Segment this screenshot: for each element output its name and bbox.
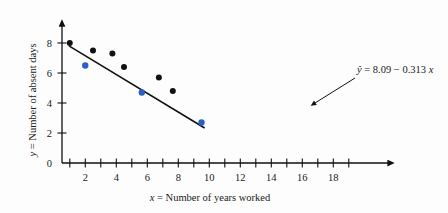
y-tick-label: 6 (47, 68, 52, 79)
y-tick-label: 2 (47, 128, 52, 139)
x-tick-label: 14 (266, 172, 277, 183)
x-tick-label: 6 (145, 172, 150, 183)
x-axis-title-text: = Number of years worked (154, 192, 271, 203)
y-tick-label: 0 (47, 158, 52, 169)
equation-body: = 8.09 − 0.313 (362, 64, 429, 75)
y-axis-title: y = Number of absent days (27, 44, 38, 158)
x-axis-title: x = Number of years worked (149, 192, 271, 203)
regression-line (69, 46, 205, 128)
x-tick-label: 18 (328, 172, 339, 183)
x-tick-label: 8 (176, 172, 181, 183)
x-tick-label: 16 (297, 172, 308, 183)
data-point (139, 89, 145, 95)
data-point (121, 64, 127, 70)
data-point (82, 62, 88, 68)
data-point (198, 119, 204, 125)
x-tick-label: 12 (235, 172, 246, 183)
x-axis-tick-labels: 2 4 6 8 10 12 14 16 18 (83, 172, 339, 183)
data-point (156, 75, 162, 81)
data-point (67, 40, 73, 46)
y-tick-label: 4 (47, 98, 53, 109)
y-axis-title-text: = Number of absent days (27, 44, 38, 152)
equation-x-variable: x (428, 64, 434, 75)
scatterplot-figure: 8 6 4 2 0 (0, 0, 448, 213)
annotation-pointer-line (315, 78, 355, 103)
x-tick-label: 2 (83, 172, 88, 183)
plot-canvas: 8 6 4 2 0 (0, 0, 448, 213)
data-point (109, 51, 115, 57)
x-tick-label: 10 (204, 172, 215, 183)
data-point (170, 88, 176, 94)
y-tick-label: 8 (47, 38, 52, 49)
x-tick-label: 4 (114, 172, 120, 183)
regression-equation-label: ŷ = 8.09 − 0.313 x (356, 64, 434, 75)
y-axis-tick-labels: 8 6 4 2 0 (47, 38, 53, 169)
data-point (90, 48, 96, 54)
